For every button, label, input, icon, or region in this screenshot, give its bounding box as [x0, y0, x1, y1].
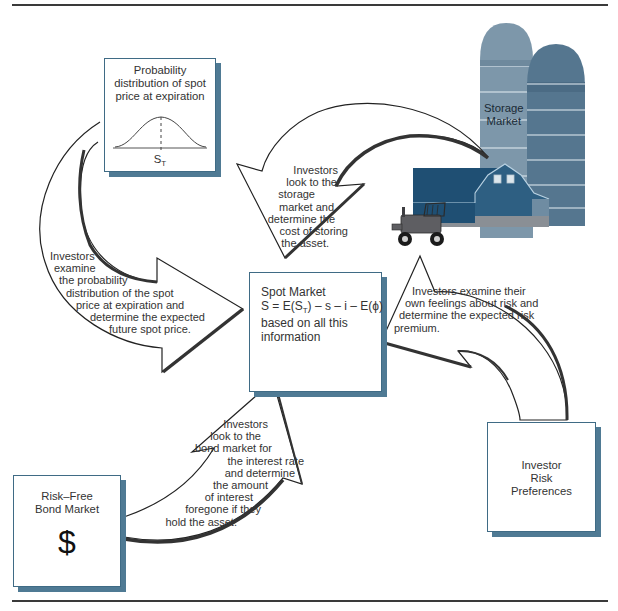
spot-price-axis-label: ST	[105, 153, 215, 170]
arrow-probability-text: Investors examine the probability distri…	[50, 250, 205, 335]
risk-preferences-box: Investor Risk Preferences	[487, 422, 596, 532]
risk-preferences-title: Investor Risk Preferences	[488, 459, 595, 499]
bond-title-line: Bond Market	[14, 503, 120, 516]
arrow-text-line: foregone if they	[150, 503, 304, 515]
arrow-risk-text: Investors examine their own feelings abo…	[392, 285, 538, 334]
arrow-text-line: examine	[50, 262, 205, 274]
arrow-text-line: own feelings about risk and	[392, 297, 538, 309]
storage-label-line: Storage	[484, 102, 524, 115]
spot-market-text: Spot Market S = E(ST) – s – i – E(ϕ) bas…	[261, 286, 383, 344]
arrow-text-line: the interest rate	[150, 455, 304, 467]
storage-label-line: Market	[484, 115, 524, 128]
arrow-bond-text: Investors look to the bond market for th…	[150, 418, 304, 528]
arrow-text-line: premium.	[392, 322, 538, 334]
arrow-text-line: hold the asset.	[150, 516, 304, 528]
risk-title-line: Investor	[488, 459, 595, 472]
arrow-storage-text: Investors look to the storage market and…	[262, 164, 348, 249]
arrow-text-line: cost of storing	[262, 225, 348, 237]
arrow-text-line: Investors	[50, 250, 205, 262]
arrow-text-line: determine the expected	[50, 311, 205, 323]
bond-title-line: Risk–Free	[14, 490, 120, 503]
spot-market-formula: S = E(ST) – s – i – E(ϕ)	[261, 300, 383, 318]
spot-market-title: Spot Market	[261, 286, 383, 300]
storage-market-label: Storage Market	[484, 102, 524, 127]
probability-distribution-box: Probability distribution of spot price a…	[104, 58, 216, 172]
risk-title-line: Preferences	[488, 485, 595, 498]
arrow-text-line: determine the	[262, 213, 348, 225]
arrow-text-line: distribution of the spot	[50, 287, 205, 299]
probability-title-line: Probability	[105, 64, 215, 77]
arrow-risk-to-spot	[381, 256, 567, 420]
arrow-text-line: Investors	[150, 418, 304, 430]
arrow-text-line: look to the	[262, 176, 348, 188]
probability-box-title: Probability distribution of spot price a…	[105, 64, 215, 104]
arrow-text-line: the asset.	[262, 237, 348, 249]
axis-label-subscript: T	[161, 159, 166, 168]
bond-market-title: Risk–Free Bond Market	[14, 490, 120, 516]
bond-market-box: Risk–Free Bond Market $	[13, 475, 121, 587]
arrow-text-line: Investors	[262, 164, 348, 176]
arrow-text-line: look to the	[150, 430, 304, 442]
spot-market-desc-line: information	[261, 331, 383, 345]
arrow-text-line: bond market for	[150, 442, 304, 454]
arrow-text-line: Investors examine their	[392, 285, 538, 297]
arrow-text-line: storage	[262, 188, 348, 200]
arrow-text-line: future spot price.	[50, 323, 205, 335]
spot-market-desc-line: based on all this	[261, 317, 383, 331]
probability-title-line: price at expiration	[105, 90, 215, 103]
bell-curve-icon	[111, 111, 211, 153]
arrow-text-line: determine the expected risk	[392, 309, 538, 321]
dollar-sign-icon: $	[14, 524, 120, 560]
arrow-text-line: of interest	[150, 491, 304, 503]
arrow-text-line: the probability	[50, 274, 205, 286]
risk-title-line: Risk	[488, 472, 595, 485]
probability-title-line: distribution of spot	[105, 77, 215, 90]
spot-market-box: Spot Market S = E(ST) – s – i – E(ϕ) bas…	[249, 272, 382, 392]
formula-lhs: S = E(S	[261, 299, 303, 313]
arrow-text-line: price at expiration and	[50, 299, 205, 311]
arrow-text-line: and determine	[150, 467, 304, 479]
arrow-text-line: market and	[262, 201, 348, 213]
formula-rhs: ) – s – i – E(ϕ)	[308, 299, 383, 313]
arrow-text-line: the amount	[150, 479, 304, 491]
